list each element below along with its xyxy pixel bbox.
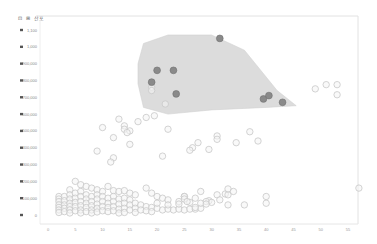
highlighted-point — [148, 79, 155, 86]
y-tick-label: 900,000 — [23, 61, 38, 66]
y-tick-label: 200,000 — [23, 179, 38, 184]
x-tick-label: 0 — [47, 227, 50, 232]
y-tick-label: 800,000 — [23, 78, 38, 83]
x-tick-label: 10 — [100, 227, 105, 232]
y-tick-marker — [20, 147, 23, 149]
scatter-point — [233, 139, 239, 145]
scatter-point — [165, 126, 171, 132]
scatter-point — [105, 183, 111, 189]
y-tick-marker — [20, 96, 23, 98]
highlighted-point — [173, 91, 180, 98]
y-tick-label: 0 — [35, 213, 38, 218]
y-tick-marker — [20, 197, 23, 199]
scatter-point — [255, 138, 261, 144]
x-tick-label: 15 — [128, 227, 133, 232]
y-tick-marker — [20, 214, 23, 216]
y-tick-label: 300,000 — [23, 162, 38, 167]
scatter-point — [334, 81, 340, 87]
scatter-point — [247, 129, 253, 135]
scatter-point — [159, 153, 165, 159]
scatter-point — [312, 86, 318, 92]
highlighted-point — [279, 99, 286, 106]
x-tick-label: 20 — [155, 227, 160, 232]
scatter-point — [323, 81, 329, 87]
scatter-point — [162, 101, 168, 107]
y-tick-marker — [20, 180, 23, 182]
scatter-point — [206, 146, 212, 152]
y-tick-label: 1,000 — [27, 44, 38, 49]
scatter-point — [214, 136, 220, 142]
scatter-point — [94, 148, 100, 154]
scatter-point — [198, 188, 204, 194]
scatter-point — [356, 185, 362, 191]
x-tick-label: 30 — [209, 227, 214, 232]
scatter-point — [187, 147, 193, 153]
scatter-point — [165, 202, 171, 208]
y-tick-label: 100,000 — [23, 196, 38, 201]
scatter-point — [116, 116, 122, 122]
highlighted-point — [154, 67, 161, 74]
y-tick-marker — [20, 79, 23, 81]
highlighted-point — [266, 92, 273, 99]
y-tick-label: 600,000 — [23, 112, 38, 117]
scatter-point — [184, 198, 190, 204]
scatter-point — [241, 202, 247, 208]
scatter-point — [124, 129, 130, 135]
highlight-hull-layer — [138, 35, 296, 114]
scatter-point — [148, 87, 154, 93]
scatter-point — [127, 141, 133, 147]
highlight-hull — [138, 35, 296, 114]
x-tick-label: 35 — [237, 227, 242, 232]
x-tick-label: 50 — [319, 227, 324, 232]
y-tick-marker — [20, 163, 23, 165]
scatter-point — [230, 188, 236, 194]
scatter-point — [110, 134, 116, 140]
y-tick-marker — [20, 130, 23, 132]
scatter-point — [263, 193, 269, 199]
scatter-point — [176, 201, 182, 207]
y-tick-label: 1,100 — [27, 28, 38, 33]
scatter-point — [143, 185, 149, 191]
scatter-point — [225, 202, 231, 208]
y-axis: 0100,000200,000300,000400,000500,000600,… — [20, 28, 38, 218]
x-tick-label: 25 — [182, 227, 187, 232]
x-tick-label: 45 — [291, 227, 296, 232]
y-tick-marker — [20, 62, 23, 64]
y-tick-label: 500,000 — [23, 128, 38, 133]
highlighted-point — [170, 67, 177, 74]
scatter-point — [132, 192, 138, 198]
scatter-point — [108, 159, 114, 165]
scatter-point — [143, 114, 149, 120]
y-tick-marker — [20, 113, 23, 115]
scatter-chart: 0100,000200,000300,000400,000500,000600,… — [0, 0, 377, 244]
y-tick-marker — [20, 29, 23, 31]
scatter-point — [334, 92, 340, 98]
scatter-point — [154, 200, 160, 206]
x-axis: 0510152025303540455055 — [47, 227, 351, 232]
x-tick-label: 55 — [346, 227, 351, 232]
scatter-point — [192, 195, 198, 201]
scatter-point — [192, 204, 198, 210]
scatter-point — [263, 200, 269, 206]
y-tick-label: 400,000 — [23, 145, 38, 150]
x-tick-label: 5 — [74, 227, 77, 232]
scatter-point — [99, 124, 105, 130]
x-tick-label: 40 — [264, 227, 269, 232]
y-tick-label: 700,000 — [23, 95, 38, 100]
scatter-point — [151, 113, 157, 119]
scatter-point — [203, 201, 209, 207]
scatter-point — [195, 139, 201, 145]
scatter-point — [217, 197, 223, 203]
highlighted-point — [216, 35, 223, 42]
y-tick-marker — [20, 46, 23, 48]
scatter-point — [135, 118, 141, 124]
